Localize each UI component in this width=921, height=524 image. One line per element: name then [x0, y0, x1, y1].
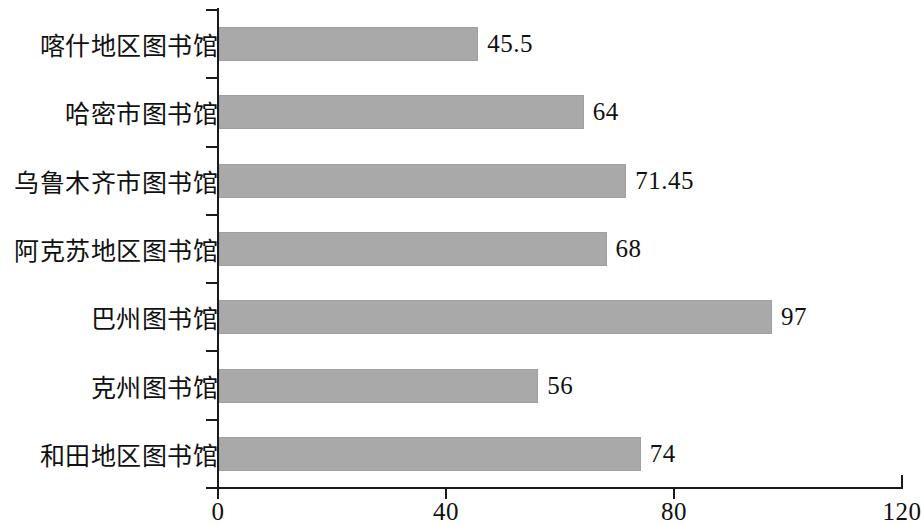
bar-chart: 04080120 喀什地区图书馆45.5哈密市图书馆64乌鲁木齐市图书馆71.4…: [0, 0, 921, 524]
bar-row: 阿克苏地区图书馆68: [0, 215, 921, 283]
bar-value-label: 64: [593, 98, 619, 126]
bar: [219, 164, 626, 198]
bar: [219, 369, 538, 403]
bar-value-label: 56: [547, 372, 573, 400]
bar-row: 哈密市图书馆64: [0, 78, 921, 146]
bar-row: 乌鲁木齐市图书馆71.45: [0, 147, 921, 215]
category-label: 和田地区图书馆: [40, 436, 219, 472]
bar-value-label: 97: [781, 303, 807, 331]
bar-value-label: 45.5: [487, 30, 533, 58]
bar-value-label: 68: [616, 235, 642, 263]
category-label: 乌鲁木齐市图书馆: [14, 163, 218, 199]
x-axis-tick-label: 120: [883, 498, 921, 524]
bar: [219, 95, 584, 129]
bar: [219, 232, 607, 266]
category-label: 喀什地区图书馆: [40, 26, 219, 62]
bar-row: 克州图书馆56: [0, 351, 921, 419]
category-label: 巴州图书馆: [91, 299, 219, 335]
x-axis-tick-label: 40: [433, 498, 459, 524]
category-label: 阿克苏地区图书馆: [14, 231, 218, 267]
bar-value-label: 71.45: [635, 167, 694, 195]
x-axis-tick-label: 0: [212, 498, 225, 524]
bar: [219, 437, 641, 471]
bar-row: 巴州图书馆97: [0, 283, 921, 351]
x-axis-tick-label: 80: [661, 498, 687, 524]
bar: [219, 300, 772, 334]
bar: [219, 27, 478, 61]
bar-value-label: 74: [650, 440, 676, 468]
category-label: 克州图书馆: [91, 368, 219, 404]
bar-row: 和田地区图书馆74: [0, 420, 921, 488]
bar-row: 喀什地区图书馆45.5: [0, 10, 921, 78]
category-label: 哈密市图书馆: [65, 94, 218, 130]
